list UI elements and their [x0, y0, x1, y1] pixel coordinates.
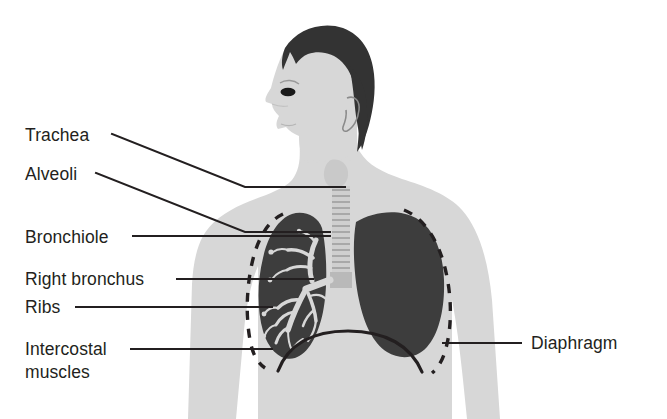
respiratory-system-diagram: Trachea Alveoli Bronchiole Right bronchu… — [0, 0, 667, 419]
label-intercostal-muscles-line2: muscles — [25, 362, 90, 382]
eye — [281, 88, 296, 96]
label-bronchiole: Bronchiole — [25, 227, 109, 247]
anatomy-illustration: Trachea Alveoli Bronchiole Right bronchu… — [0, 0, 667, 419]
label-trachea: Trachea — [25, 125, 89, 145]
label-diaphragm: Diaphragm — [531, 333, 618, 353]
label-ribs: Ribs — [25, 297, 61, 317]
label-intercostal-muscles-line1: Intercostal — [25, 339, 107, 359]
label-right-bronchus: Right bronchus — [25, 269, 144, 289]
trachea-tube — [332, 186, 350, 274]
trachea-with-cartilage-rings — [330, 186, 352, 288]
label-alveoli: Alveoli — [25, 164, 77, 184]
